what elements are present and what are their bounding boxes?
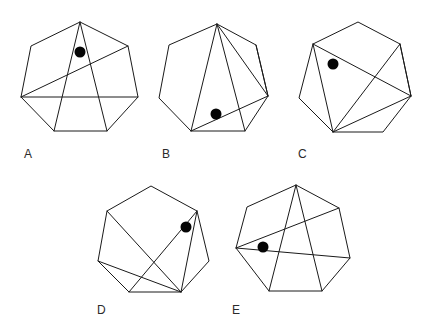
option-label-d: D bbox=[97, 303, 106, 317]
option-group-c[interactable]: C bbox=[298, 22, 411, 161]
option-label-a: A bbox=[24, 147, 32, 161]
marker-dot-b bbox=[211, 109, 222, 120]
option-group-d[interactable]: D bbox=[97, 186, 209, 317]
option-label-b: B bbox=[162, 147, 170, 161]
option-group-e[interactable]: E bbox=[232, 185, 350, 317]
heptagon-outline-e bbox=[236, 185, 350, 291]
heptagon-outline-a bbox=[21, 22, 138, 131]
heptagon-outline-c bbox=[299, 22, 411, 132]
heptagon-options-diagram: ABCDE bbox=[0, 0, 438, 333]
option-group-b[interactable]: B bbox=[159, 24, 268, 161]
marker-dot-d bbox=[181, 222, 192, 233]
marker-dot-a bbox=[75, 47, 86, 58]
marker-dot-c bbox=[328, 59, 339, 70]
figure-stage: ABCDE bbox=[0, 0, 438, 333]
option-group-a[interactable]: A bbox=[21, 22, 138, 161]
heptagon-outline-d bbox=[98, 186, 209, 292]
marker-dot-e bbox=[258, 242, 269, 253]
option-label-e: E bbox=[232, 303, 240, 317]
option-label-c: C bbox=[298, 147, 307, 161]
